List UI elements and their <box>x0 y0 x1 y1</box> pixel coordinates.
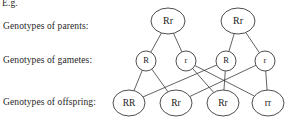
node-offspring-1: RR <box>113 90 145 116</box>
node-offspring-3: Rr <box>207 90 239 116</box>
node-gametes-1: R <box>136 51 156 71</box>
genotype-label: Rr <box>233 15 244 26</box>
genotype-label: R <box>143 55 149 65</box>
genotype-label: r <box>264 55 267 65</box>
node-gametes-4: r <box>255 51 275 71</box>
node-gametes-3: R <box>216 51 236 71</box>
edge-gamete1-offspring-Rr <box>152 69 168 92</box>
node-layer: RrRrRrRrRRRrRrrr <box>113 8 284 116</box>
punnett-cross-diagram: E.g. Genotypes of parents: Genotypes of … <box>0 0 288 117</box>
edge-parent1-gamete-R <box>151 33 162 52</box>
genotype-label: Rr <box>218 98 228 108</box>
node-gametes-2: r <box>176 51 196 71</box>
genotype-label: rr <box>265 98 272 108</box>
node-offspring-4: rr <box>252 90 284 116</box>
edge-parent1-gamete-r <box>174 33 182 52</box>
edge-parent2-gamete-R <box>229 34 234 52</box>
edge-parent2-gamete-r <box>246 33 260 53</box>
edge-gamete4-offspring-rr <box>266 71 267 90</box>
node-offspring-2: Rr <box>160 90 192 116</box>
genotype-label: RR <box>123 98 136 108</box>
node-parents-2: Rr <box>221 8 255 34</box>
genotype-label: Rr <box>171 98 181 108</box>
edge-gamete1-offspring-RR <box>134 70 142 90</box>
node-parents-1: Rr <box>151 8 185 34</box>
genotype-label: r <box>185 55 188 65</box>
genotype-label: R <box>223 55 229 65</box>
cross-graph: RrRrRrRrRRRrRrrr <box>0 0 288 117</box>
edge-gamete2-offspring-Rr <box>193 69 214 93</box>
genotype-label: Rr <box>163 15 174 26</box>
